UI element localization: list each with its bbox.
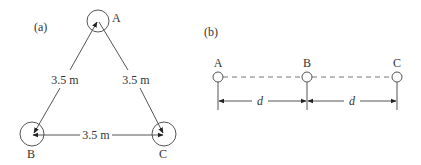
linear-node-c-label: C [393,56,401,70]
node-a-label: A [112,11,121,25]
linear-node-b-circle [302,72,312,82]
linear-node-a-circle [213,72,223,82]
edge-bc-label: 3.5 m [82,128,110,142]
edge-ac-upper [99,22,128,70]
edge-ab-upper [70,22,97,70]
linear-node-a-label: A [214,56,223,70]
panel-b: (b) A B C d d [204,25,402,110]
edge-ab-lower [34,88,60,133]
diagram-canvas: (a) A B C 3.5 m 3.5 m 3.5 m (b) A B C [0,0,421,165]
linear-node-b-label: B [303,56,311,70]
spacing-ab-label: d [257,94,264,108]
panel-a: (a) A B C 3.5 m 3.5 m 3.5 m [20,10,176,161]
panel-a-label: (a) [34,20,47,34]
node-c-label: C [159,147,167,161]
edge-ac-lower [140,88,163,133]
edge-ac-label: 3.5 m [122,73,150,87]
linear-node-c-circle [392,72,402,82]
edge-ab-label: 3.5 m [51,73,79,87]
spacing-bc-label: d [349,94,356,108]
node-a-circle [87,10,109,32]
node-b-circle [20,122,44,146]
node-c-circle [152,122,176,146]
panel-b-label: (b) [204,25,218,39]
node-b-label: B [27,147,35,161]
